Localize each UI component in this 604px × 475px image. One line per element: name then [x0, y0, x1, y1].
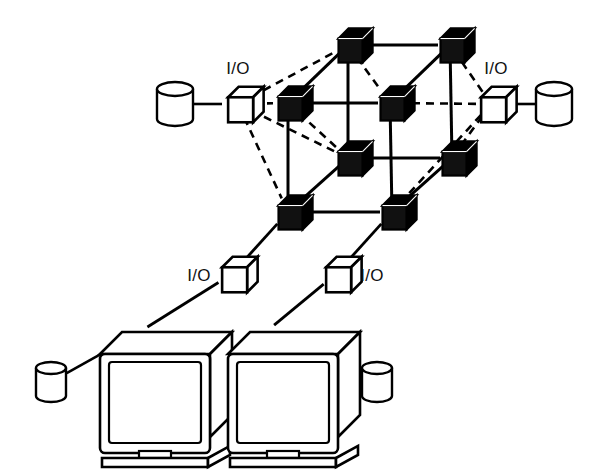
disk-workstation-right	[362, 362, 392, 402]
link-io-lower-left-to-workstation-left	[147, 282, 218, 326]
disk-top-left-top-ellipse	[157, 82, 193, 96]
dashed-links-layer	[244, 52, 482, 201]
processor-node-back-top-right-front-face	[441, 39, 465, 63]
workstation-right-base-side	[336, 446, 358, 467]
processor-node-mid-left-front-face	[339, 152, 363, 176]
disk-workstation-left-top-ellipse	[36, 362, 66, 374]
processor-node-mid-left	[339, 141, 373, 175]
io-cube-lower-left-label: I/O	[187, 266, 210, 285]
processor-nodes-layer	[279, 28, 477, 229]
processor-node-center-right-front-face	[381, 97, 405, 121]
link-io-left-to-bottom-left	[244, 118, 281, 199]
link-io-lower-right-to-workstation-right	[274, 284, 324, 325]
io-cube-lower-right-front-face	[326, 267, 351, 292]
workstations-layer	[100, 332, 360, 467]
workstation-left-base-side	[208, 446, 230, 467]
processor-node-bottom-right-front-face	[383, 206, 407, 230]
io-cube-left	[228, 87, 264, 123]
processor-node-front-top-left-front-face	[279, 97, 303, 121]
processor-node-mid-right-front-face	[443, 152, 467, 176]
io-cube-left-front-face	[228, 97, 253, 122]
disk-top-left	[157, 82, 193, 126]
solid-links-layer	[288, 45, 452, 212]
processor-node-bottom-right	[383, 195, 417, 229]
disk-top-right-top-ellipse	[536, 82, 572, 96]
diagram-canvas: I/OI/OI/OI/O	[0, 0, 604, 475]
io-cube-lower-right-label: I/O	[360, 266, 383, 285]
io-cube-lower-left	[222, 257, 258, 293]
processor-node-back-top-left-front-face	[339, 39, 363, 63]
processor-node-mid-right	[443, 141, 477, 175]
disk-top-right	[536, 82, 572, 126]
workstation-right-screen	[237, 362, 329, 443]
io-cube-lower-left-front-face	[222, 267, 247, 292]
workstation-right-base-front	[230, 458, 336, 467]
link-front-right-vertical	[390, 115, 392, 200]
io-cube-left-label: I/O	[226, 59, 249, 78]
processor-node-center-right	[381, 86, 415, 120]
workstation-left-screen	[109, 362, 201, 443]
processor-node-bottom-left	[279, 195, 313, 229]
processor-node-back-top-left	[339, 28, 373, 62]
workstation-left-base-front	[102, 458, 208, 467]
disk-workstation-right-top-ellipse	[362, 362, 392, 374]
network-diagram: I/OI/OI/OI/O	[0, 0, 604, 475]
io-cube-right-label: I/O	[484, 59, 507, 78]
processor-node-back-top-right	[441, 28, 475, 62]
io-cube-right	[481, 87, 517, 123]
processor-node-bottom-left-front-face	[279, 206, 303, 230]
disk-workstation-left	[36, 362, 66, 402]
workstation-right	[228, 332, 360, 467]
link-back-right-vertical	[450, 57, 452, 146]
io-cube-lower-right	[326, 257, 362, 293]
processor-node-front-top-left	[279, 86, 313, 120]
io-cube-right-front-face	[481, 97, 506, 122]
workstation-left	[100, 332, 232, 467]
